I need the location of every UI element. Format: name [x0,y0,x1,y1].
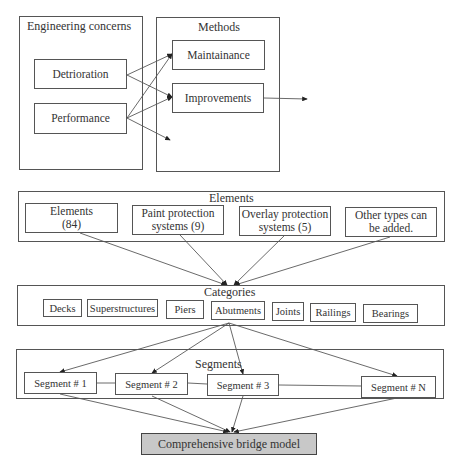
category-abutments: Abutments [211,301,265,320]
element-line2: systems (9) [152,220,205,233]
concern-detrioration: Detrioration [34,59,127,89]
method-improvements: Improvements [172,83,264,113]
element-line2: (84) [62,218,81,231]
element-box-paint-protection: Paint protection systems (9) [132,205,224,235]
category-joints: Joints [272,302,304,321]
element-box-elements: Elements (84) [25,203,118,233]
engineering-concerns-title: Engineering concerns [27,19,131,34]
element-box-other-types: Other types can be added. [345,207,437,237]
category-piers: Piers [166,300,204,319]
category-railings: Railings [310,303,356,322]
element-line1: Elements [50,205,93,218]
category-superstructures: Superstructures [87,299,158,317]
element-line2: systems (5) [259,221,312,234]
categories-title: Categories [204,285,255,300]
category-decks: Decks [43,299,82,317]
concern-performance: Performance [34,103,127,134]
comprehensive-bridge-model: Comprehensive bridge model [141,433,317,455]
element-line2: be added. [369,222,413,235]
element-line1: Other types can [355,209,427,222]
elements-title: Elements [209,191,254,206]
methods-title: Methods [198,20,240,35]
engineering-concerns-frame [19,16,143,170]
segment-3: Segment # 3 [207,374,279,396]
segments-title: Segments [195,357,242,372]
element-line1: Overlay protection [242,208,329,221]
method-maintainance: Maintainance [172,40,265,70]
category-bearings: Bearings [363,304,418,323]
element-box-overlay-protection: Overlay protection systems (5) [239,206,331,236]
segment-1: Segment # 1 [24,372,97,394]
segment-n: Segment # N [361,376,436,398]
element-line1: Paint protection [141,207,214,220]
segment-2: Segment # 2 [115,373,188,395]
